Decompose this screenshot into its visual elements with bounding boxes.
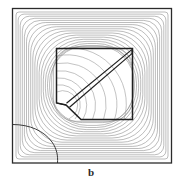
diagonal-slit-group (67, 50, 133, 108)
outer-contour-group (16, 12, 168, 159)
contour-line (31, 27, 154, 145)
slit-upper-edge (67, 50, 132, 104)
inner-contour-line (57, 48, 126, 120)
inner-contour-group (57, 48, 126, 120)
contour-line (18, 14, 166, 157)
contour-plot-svg (0, 0, 182, 187)
figure-caption: b (0, 166, 182, 179)
figure-container: b (0, 0, 182, 187)
contour-line (39, 35, 145, 136)
slit-lower-edge (70, 53, 133, 107)
